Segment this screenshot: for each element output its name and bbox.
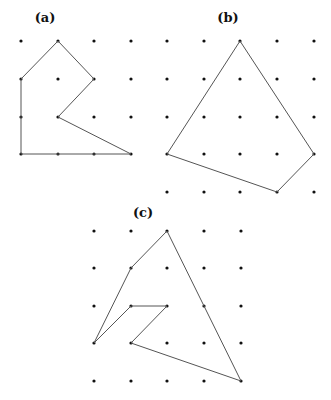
grid-dot: [202, 152, 205, 155]
grid-dot: [129, 39, 132, 42]
grid-dot: [165, 77, 168, 80]
grid-dot: [129, 115, 132, 118]
grid-dot: [165, 266, 168, 269]
grid-dot: [275, 39, 278, 42]
grid-dot: [92, 229, 95, 232]
grid-dot: [312, 190, 315, 193]
grid-dot: [92, 379, 95, 382]
grid-dot: [129, 379, 132, 382]
grid-dot: [129, 77, 132, 80]
grid-dot: [202, 77, 205, 80]
grid-dot: [165, 379, 168, 382]
panel-a: (a): [19, 10, 132, 156]
grid-dot: [202, 266, 205, 269]
grid-dot: [312, 77, 315, 80]
panel-label-c: (c): [133, 205, 153, 220]
grid-dot: [92, 39, 95, 42]
grid-dot: [312, 39, 315, 42]
polygon-a: [21, 41, 131, 154]
grid-dot: [202, 341, 205, 344]
grid-dot: [275, 115, 278, 118]
panel-b: (b): [165, 10, 315, 194]
grid-dot: [238, 190, 241, 193]
grid-dot: [239, 304, 242, 307]
grid-dot: [202, 115, 205, 118]
grid-dot: [239, 266, 242, 269]
panel-c: (c): [92, 205, 242, 383]
grid-dot: [275, 77, 278, 80]
grid-dot: [239, 341, 242, 344]
grid-dot: [165, 190, 168, 193]
grid-dot: [275, 152, 278, 155]
grid-dot: [129, 229, 132, 232]
grid-dot: [202, 229, 205, 232]
dot-grid-diagram: (a) (b) (c): [0, 0, 331, 400]
panel-label-a: (a): [35, 10, 56, 25]
grid-dot: [165, 39, 168, 42]
grid-dot: [239, 229, 242, 232]
grid-dot: [238, 115, 241, 118]
grid-dot: [165, 115, 168, 118]
grid-dot: [238, 77, 241, 80]
grid-dot: [202, 190, 205, 193]
grid-dot: [56, 77, 59, 80]
grid-dot: [92, 304, 95, 307]
grid-dot: [92, 115, 95, 118]
dot-grid-b: [165, 39, 315, 193]
grid-dot: [92, 266, 95, 269]
grid-dot: [165, 341, 168, 344]
grid-dot: [19, 39, 22, 42]
grid-dot: [202, 379, 205, 382]
grid-dot: [312, 115, 315, 118]
panel-label-b: (b): [217, 10, 238, 25]
grid-dot: [202, 39, 205, 42]
polygon-c: [94, 231, 241, 381]
grid-dot: [238, 152, 241, 155]
